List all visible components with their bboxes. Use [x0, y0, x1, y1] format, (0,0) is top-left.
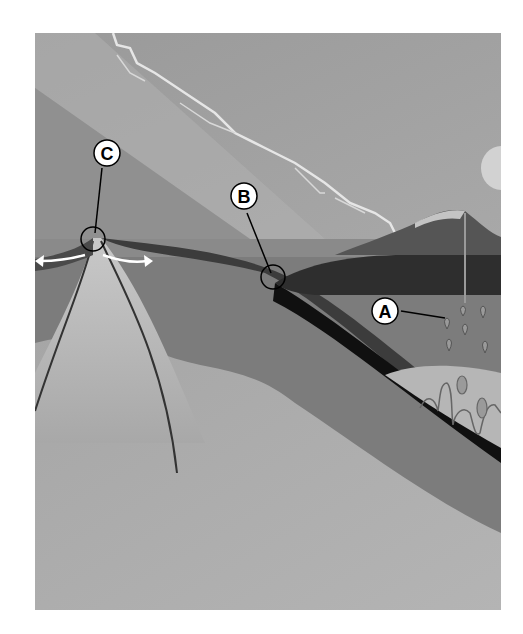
label-c-text: C	[101, 144, 114, 164]
label-c: C	[94, 140, 120, 166]
label-a-text: A	[379, 302, 392, 322]
magma-blob	[457, 376, 467, 394]
magma-blob	[477, 398, 487, 418]
tectonic-diagram: C B A	[35, 33, 501, 610]
label-b-text: B	[238, 187, 251, 207]
label-b: B	[231, 183, 257, 209]
label-a: A	[372, 298, 398, 324]
tectonic-diagram-svg: C B A	[35, 33, 501, 610]
